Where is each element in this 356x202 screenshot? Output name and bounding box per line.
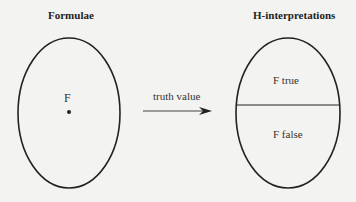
interpretations-set-ellipse (236, 38, 340, 188)
formula-point (67, 110, 71, 114)
f-true-region-label: F true (273, 74, 299, 86)
formulae-title: Formulae (48, 9, 94, 21)
interpretations-title: H-interpretations (253, 9, 335, 21)
arrow-label: truth value (153, 90, 200, 102)
f-false-region-label: F false (273, 128, 303, 140)
formula-label: F (64, 91, 71, 106)
